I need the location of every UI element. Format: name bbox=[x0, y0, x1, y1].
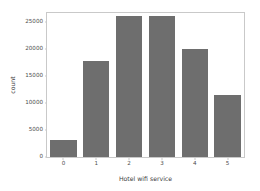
x-tick-label: 1 bbox=[94, 157, 98, 167]
x-tick-label: 4 bbox=[193, 157, 197, 167]
y-tick-label: 20000 bbox=[25, 46, 47, 52]
y-tick-label: 10000 bbox=[25, 100, 47, 106]
plot-axes: 0500010000150002000025000 012345 bbox=[46, 12, 245, 158]
y-tick-label: 15000 bbox=[25, 73, 47, 79]
y-tick-label: 0 bbox=[39, 154, 47, 160]
x-tick-label: 2 bbox=[127, 157, 131, 167]
bar bbox=[116, 16, 142, 157]
bar bbox=[182, 49, 208, 157]
x-tick-label: 5 bbox=[226, 157, 230, 167]
x-axis-label: Hotel wifi service bbox=[46, 176, 245, 182]
y-tick-label: 25000 bbox=[25, 19, 47, 25]
y-axis-label: count bbox=[10, 76, 16, 93]
y-tick-label: 5000 bbox=[29, 127, 47, 133]
bar bbox=[83, 61, 109, 157]
plot-area bbox=[47, 13, 244, 157]
bar bbox=[149, 16, 175, 157]
x-tick-label: 0 bbox=[62, 157, 66, 167]
bar-chart-figure: 0500010000150002000025000 012345 Hotel w… bbox=[0, 0, 260, 191]
bar bbox=[214, 95, 240, 157]
bar bbox=[50, 140, 76, 157]
x-tick-label: 3 bbox=[160, 157, 164, 167]
